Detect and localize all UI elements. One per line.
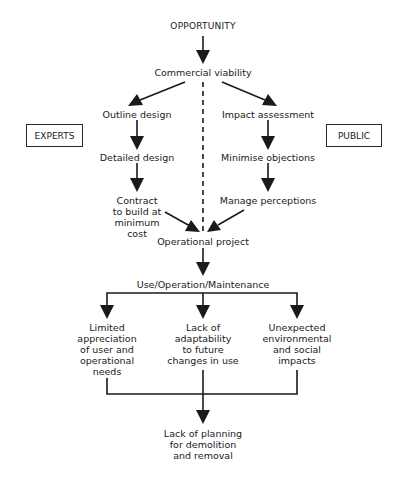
node-minimise-objections: Minimise objections xyxy=(218,152,318,163)
label-public-text: PUBLIC xyxy=(338,131,370,141)
node-outline-design: Outline design xyxy=(92,109,182,120)
node-unexpected-impacts: Unexpected environmental and social impa… xyxy=(254,322,340,366)
node-limited-appreciation: Limited appreciation of user and operati… xyxy=(67,322,147,377)
node-impact-assessment: Impact assessment xyxy=(218,109,318,120)
node-use-operation-maintenance: Use/Operation/Maintenance xyxy=(133,279,273,290)
label-experts: EXPERTS xyxy=(26,124,83,147)
node-manage-perceptions: Manage perceptions xyxy=(218,195,318,206)
node-lack-of-adaptability: Lack of adaptability to future changes i… xyxy=(158,322,248,366)
node-commercial-viability: Commercial viability xyxy=(143,67,263,78)
node-operational-project: Operational project xyxy=(148,236,258,247)
node-lack-of-planning: Lack of planning for demolition and remo… xyxy=(153,428,253,461)
node-detailed-design: Detailed design xyxy=(92,152,182,163)
label-experts-text: EXPERTS xyxy=(35,131,75,141)
node-opportunity: OPPORTUNITY xyxy=(153,21,253,32)
label-public: PUBLIC xyxy=(326,124,382,147)
node-contract: Contract to build at minimum cost xyxy=(102,195,172,239)
